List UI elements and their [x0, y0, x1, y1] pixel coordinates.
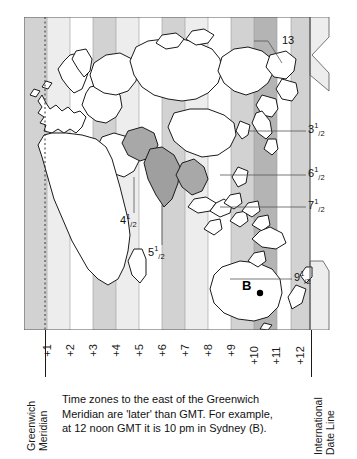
sydney-marker-label: B [242, 279, 251, 292]
axis-tick-plus-9: +9 [224, 331, 238, 375]
caption-line-3: at 12 noon GMT it is 10 pm in Sydney (B)… [62, 421, 302, 436]
callout-13: 13 [282, 35, 294, 46]
map-graphic [24, 17, 332, 330]
world-map: 13 31/2 61/2 71/2 91/2 41/2 51/2 B [24, 17, 332, 330]
greenwich-meridian-leader [45, 330, 46, 377]
callout-9-half: 91/2 [294, 272, 311, 283]
axis-tick-plus-4: +4 [109, 331, 123, 375]
axis-tick-plus-11: +11 [270, 331, 284, 375]
callout-4-half: 41/2 [120, 215, 137, 226]
callout-5-half: 51/2 [148, 247, 165, 258]
axis-tick-plus-6: +6 [155, 331, 169, 375]
greenwich-meridian-label-line2: Meridian [38, 411, 50, 451]
axis-tick-plus-8: +8 [201, 331, 215, 375]
axis-tick-plus-1: +1 [40, 331, 54, 375]
axis-tick-plus-10: +10 [247, 331, 261, 375]
figure-caption: Time zones to the east of the Greenwich … [62, 392, 302, 436]
caption-line-1: Time zones to the east of the Greenwich [62, 392, 302, 407]
international-date-line-label-line2: Date Line [325, 410, 337, 455]
axis-tick-plus-12: +12 [293, 331, 307, 375]
axis-tick-plus-5: +5 [132, 331, 146, 375]
time-zone-map-figure: 13 31/2 61/2 71/2 91/2 41/2 51/2 B +1 +2… [0, 0, 357, 459]
axis-tick-plus-3: +3 [86, 331, 100, 375]
axis-tick-plus-2: +2 [63, 331, 77, 375]
caption-line-2: Meridian are 'later' than GMT. For examp… [62, 407, 302, 422]
callout-3-half: 31/2 [308, 124, 325, 135]
sydney-marker-dot [257, 290, 263, 296]
callout-7-half: 71/2 [308, 200, 325, 211]
callout-6-half: 61/2 [308, 168, 325, 179]
greenwich-meridian-label-line1: Greenwich [26, 401, 38, 451]
international-date-line-leader [311, 330, 312, 377]
international-date-line-label-line1: International [313, 397, 325, 455]
axis-tick-plus-7: +7 [178, 331, 192, 375]
time-zone-axis: +1 +2 +3 +4 +5 +6 +7 +8 +9 +10 +11 +12 [24, 331, 332, 377]
